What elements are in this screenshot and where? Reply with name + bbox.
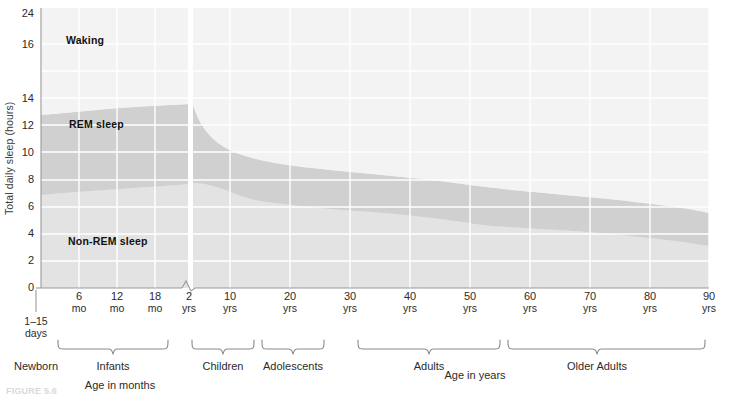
- rem-band-label: REM sleep: [69, 118, 124, 130]
- x-axis-titles: Age in months Age in years: [85, 369, 506, 391]
- x-tick-2yrs-value: 2: [186, 290, 192, 302]
- nonrem-band-label: Non-REM sleep: [68, 235, 148, 247]
- x-tick-70yrs-value: 70: [584, 290, 596, 302]
- chart-canvas: 0 2 4 6 8 10 12 14 16 24 Total daily sle…: [0, 0, 730, 395]
- y-tick-16: 16: [22, 38, 34, 50]
- x-tick-12mo-value: 12: [111, 290, 123, 302]
- x-tick-60yrs-unit: yrs: [523, 302, 537, 314]
- age-group-labels: Newborn Infants Children Adolescents Adu…: [14, 360, 627, 372]
- bracket-adults: [358, 340, 500, 354]
- y-tick-2: 2: [28, 254, 34, 266]
- x-tick-40yrs-unit: yrs: [403, 302, 417, 314]
- x-tick-30yrs-unit: yrs: [343, 302, 357, 314]
- x-tick-80yrs-unit: yrs: [643, 302, 657, 314]
- group-label-infants: Infants: [96, 360, 130, 372]
- sleep-across-lifespan-figure: 0 2 4 6 8 10 12 14 16 24 Total daily sle…: [0, 0, 730, 395]
- y-tick-14: 14: [22, 92, 34, 104]
- x-tick-50yrs-value: 50: [464, 290, 476, 302]
- x-tick-6mo-unit: mo: [72, 302, 87, 314]
- x-axis-title-months: Age in months: [85, 379, 156, 391]
- newborn-age-note: 1–15 days: [24, 290, 48, 339]
- x-tick-90yrs-unit: yrs: [702, 302, 716, 314]
- group-label-older-adults: Older Adults: [567, 360, 627, 372]
- group-label-children: Children: [203, 360, 244, 372]
- group-label-newborn: Newborn: [14, 360, 58, 372]
- y-axis-title: Total daily sleep (hours): [3, 102, 15, 215]
- figure-caption: FIGURE 5.6: [6, 386, 57, 395]
- x-tick-60yrs-value: 60: [524, 290, 536, 302]
- y-tick-24: 24: [22, 7, 34, 19]
- y-tick-12: 12: [22, 119, 34, 131]
- waking-band-label: Waking: [66, 34, 104, 46]
- y-tick-8: 8: [28, 173, 34, 185]
- group-label-adults: Adults: [414, 360, 445, 372]
- x-axis-tick-labels-years: 10 yrs 20 yrs 30 yrs 40 yrs 50 yrs 60 yr…: [223, 290, 716, 314]
- x-tick-70yrs-unit: yrs: [583, 302, 597, 314]
- bracket-older-adults: [508, 340, 705, 354]
- x-tick-20yrs-value: 20: [284, 290, 296, 302]
- x-tick-50yrs-unit: yrs: [463, 302, 477, 314]
- group-label-adolescents: Adolescents: [263, 360, 323, 372]
- x-tick-6mo-value: 6: [76, 290, 82, 302]
- x-tick-30yrs-value: 30: [344, 290, 356, 302]
- y-tick-0: 0: [28, 281, 34, 293]
- x-tick-18mo-unit: mo: [148, 302, 163, 314]
- x-tick-90yrs-value: 90: [703, 290, 715, 302]
- y-tick-10: 10: [22, 146, 34, 158]
- x-tick-10yrs-unit: yrs: [223, 302, 237, 314]
- x-tick-40yrs-value: 40: [404, 290, 416, 302]
- newborn-note-line2: days: [25, 327, 47, 339]
- y-axis-tick-labels: 0 2 4 6 8 10 12 14 16 24: [22, 7, 34, 293]
- newborn-note-line1: 1–15: [24, 315, 48, 327]
- x-tick-2yrs-unit: yrs: [182, 302, 196, 314]
- x-tick-18mo-value: 18: [149, 290, 161, 302]
- x-axis-title-years: Age in years: [444, 369, 506, 381]
- x-axis-break-gap: [188, 8, 193, 288]
- x-axis-tick-labels-months: 6 mo 12 mo 18 mo 2 yrs: [72, 290, 196, 314]
- bracket-adolescents: [262, 340, 324, 354]
- x-tick-10yrs-value: 10: [224, 290, 236, 302]
- bracket-children: [192, 340, 254, 354]
- x-tick-20yrs-unit: yrs: [283, 302, 297, 314]
- y-tick-6: 6: [28, 200, 34, 212]
- bracket-infants: [58, 340, 168, 354]
- y-tick-4: 4: [28, 227, 34, 239]
- age-group-brackets: [58, 340, 705, 354]
- x-tick-80yrs-value: 80: [644, 290, 656, 302]
- svg-text:Total daily sleep (hours): Total daily sleep (hours): [3, 102, 15, 215]
- x-tick-12mo-unit: mo: [110, 302, 125, 314]
